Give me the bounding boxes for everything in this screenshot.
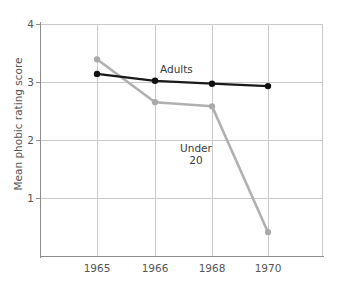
x-tick-label-1965: 1965: [67, 263, 127, 274]
y-axis-spine: [40, 22, 41, 258]
x-tick-label-1968: 1968: [182, 263, 242, 274]
y-tick-label-2: 2: [0, 135, 34, 146]
x-tick-label-1970: 1970: [238, 263, 298, 274]
gridline-y-2: [40, 140, 323, 141]
gridline-x-1965: [97, 24, 98, 256]
y-tick-label-3: 3: [0, 77, 34, 88]
gridline-x-1966: [155, 24, 156, 256]
gridline-y-3: [40, 82, 323, 83]
series-annotation-adults: Adults: [160, 63, 220, 75]
y-tick-label-1: 1: [0, 193, 34, 204]
y-axis-label: Mean phobic rating score: [12, 29, 24, 219]
gridline-x-1968: [212, 24, 213, 256]
series-annotation-under-20: Under 20: [168, 142, 224, 166]
gridline-x-1970: [268, 24, 269, 256]
x-tick-label-1966: 1966: [125, 263, 185, 274]
y-tick-label-4: 4: [0, 19, 34, 30]
gridline-y-4: [40, 24, 323, 25]
gridline-x-right-edge: [322, 24, 323, 256]
gridline-y-1: [40, 198, 323, 199]
x-axis-spine: [40, 256, 324, 257]
plot-area: [40, 24, 323, 256]
chart-figure: Mean phobic rating score 4 3 2 1: [0, 0, 343, 286]
